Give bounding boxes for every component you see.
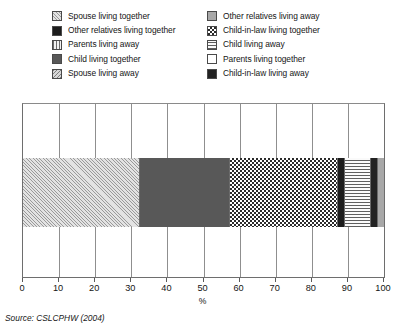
legend-item-other-relatives-living-together[interactable]: Other relatives living together <box>52 23 207 37</box>
x-tick-label-40: 40 <box>161 283 171 293</box>
x-tick-40 <box>166 278 167 282</box>
x-tick-100 <box>383 278 384 282</box>
plot-area <box>22 103 385 278</box>
legend-swatch-other-relatives-living-away <box>207 11 217 21</box>
legend-item-spouse-living-away[interactable]: Spouse living away <box>52 67 207 81</box>
legend-item-child-living-together[interactable]: Child living together <box>52 52 207 66</box>
legend-item-label: Child living away <box>223 40 285 49</box>
legend-item-label: Parents living together <box>223 55 305 64</box>
bar-segment-parents-living-together[interactable] <box>344 158 369 227</box>
chart-legend: Spouse living togetherOther relatives li… <box>52 9 372 81</box>
legend-item-label: Child-in-law living away <box>223 69 309 78</box>
legend-swatch-spouse-living-away <box>52 69 62 79</box>
x-tick-10 <box>58 278 59 282</box>
x-tick-label-100: 100 <box>375 283 390 293</box>
legend-item-child-in-law-living-away[interactable]: Child-in-law living away <box>207 67 362 81</box>
legend-swatch-parents-living-together <box>207 54 217 64</box>
x-tick-label-0: 0 <box>19 283 24 293</box>
legend-column-1: Spouse living togetherOther relatives li… <box>52 9 207 81</box>
legend-swatch-spouse-living-together <box>52 11 62 21</box>
bar-segment-other-relatives-living-together[interactable] <box>337 158 344 227</box>
source-note: Source: CSLCPHW (2004) <box>5 313 105 323</box>
legend-swatch-other-relatives-living-together <box>52 26 62 36</box>
legend-item-spouse-living-together[interactable]: Spouse living together <box>52 9 207 23</box>
bar-segment-other-relatives-living-away[interactable] <box>377 158 384 227</box>
x-tick-20 <box>94 278 95 282</box>
legend-item-label: Other relatives living together <box>68 26 175 35</box>
legend-swatch-child-in-law-living-together <box>207 26 217 36</box>
bar-segment-child-in-law-living-away[interactable] <box>370 158 377 227</box>
bar-segment-child-in-law-living-together[interactable] <box>229 158 337 227</box>
x-axis-title: % <box>0 296 405 306</box>
x-axis: 0102030405060708090100 <box>0 278 405 298</box>
x-tick-60 <box>239 278 240 282</box>
legend-item-label: Child-in-law living together <box>223 26 320 35</box>
legend-item-label: Parents living away <box>68 40 139 49</box>
legend-item-parents-living-together[interactable]: Parents living together <box>207 52 362 66</box>
x-tick-90 <box>347 278 348 282</box>
x-tick-label-70: 70 <box>270 283 280 293</box>
bar-segment-spouse-living-together[interactable] <box>23 158 139 227</box>
legend-item-label: Other relatives living away <box>223 12 319 21</box>
legend-item-label: Spouse living away <box>68 69 139 78</box>
legend-column-2: Other relatives living awayChild-in-law … <box>207 9 362 81</box>
legend-swatch-child-living-together <box>52 54 62 64</box>
legend-swatch-child-living-away <box>207 40 217 50</box>
x-tick-label-50: 50 <box>197 283 207 293</box>
legend-item-child-living-away[interactable]: Child living away <box>207 38 362 52</box>
x-tick-0 <box>22 278 23 282</box>
bar-segment-child-living-together[interactable] <box>139 158 229 227</box>
legend-item-child-in-law-living-together[interactable]: Child-in-law living together <box>207 23 362 37</box>
legend-item-parents-living-away[interactable]: Parents living away <box>52 38 207 52</box>
legend-item-label: Child living together <box>68 55 141 64</box>
x-tick-30 <box>130 278 131 282</box>
x-tick-label-60: 60 <box>233 283 243 293</box>
x-tick-80 <box>311 278 312 282</box>
x-tick-70 <box>275 278 276 282</box>
legend-item-label: Spouse living together <box>68 12 150 21</box>
x-tick-label-30: 30 <box>125 283 135 293</box>
stacked-bar <box>23 158 384 227</box>
legend-item-other-relatives-living-away[interactable]: Other relatives living away <box>207 9 362 23</box>
x-tick-50 <box>203 278 204 282</box>
x-tick-label-10: 10 <box>53 283 63 293</box>
legend-swatch-child-in-law-living-away <box>207 69 217 79</box>
legend-swatch-parents-living-away <box>52 40 62 50</box>
x-tick-label-90: 90 <box>342 283 352 293</box>
x-tick-label-20: 20 <box>89 283 99 293</box>
x-tick-label-80: 80 <box>306 283 316 293</box>
